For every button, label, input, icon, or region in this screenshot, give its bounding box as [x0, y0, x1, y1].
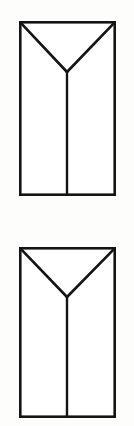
rectangle-with-inverted-y-icon	[0, 213, 134, 426]
figure-panel-top	[0, 0, 134, 213]
figure-panel-bottom	[0, 213, 134, 426]
figure-sheet: upper figure lower figure Two identical …	[0, 0, 134, 426]
rectangle-with-inverted-y-icon	[0, 0, 134, 213]
